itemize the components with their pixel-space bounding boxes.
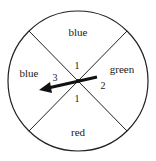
section-label-left: blue xyxy=(20,67,39,79)
angle-label-top: 1 xyxy=(75,60,80,71)
angle-label-left: 3 xyxy=(53,72,58,83)
angle-label-right: 2 xyxy=(101,80,106,91)
spinner-diagram: blue green red blue 1 2 1 3 xyxy=(0,0,156,161)
section-label-right: green xyxy=(110,63,135,75)
section-label-top: blue xyxy=(69,26,88,38)
angle-label-bottom: 1 xyxy=(75,93,80,104)
spinner-pivot xyxy=(76,79,80,83)
section-label-bottom: red xyxy=(71,126,86,138)
